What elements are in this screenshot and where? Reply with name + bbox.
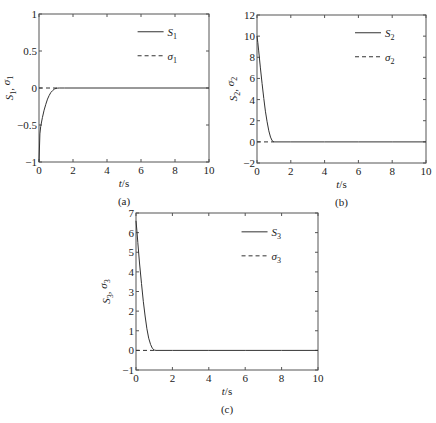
y-tick-label: 4 bbox=[129, 266, 135, 278]
chart-panel-c: 0246810−101234567t/sS3, σ3S3σ3(c) bbox=[97, 207, 324, 416]
plot-area bbox=[136, 213, 318, 370]
legend-label: S1 bbox=[168, 26, 178, 41]
x-tick-label: 10 bbox=[313, 372, 325, 384]
y-tick-label: 1 bbox=[129, 325, 135, 337]
series-line-solid bbox=[39, 88, 209, 162]
y-tick-label: 8 bbox=[250, 51, 256, 63]
y-tick-label: 12 bbox=[244, 9, 255, 21]
x-axis-label: t/s bbox=[222, 385, 232, 397]
y-tick-label: 6 bbox=[250, 72, 256, 84]
x-tick-label: 10 bbox=[421, 165, 433, 177]
x-tick-label: 0 bbox=[133, 372, 139, 384]
x-tick-label: 2 bbox=[70, 164, 76, 176]
legend-label: σ3 bbox=[272, 250, 281, 265]
legend: S2σ2 bbox=[355, 27, 395, 66]
y-tick-label: 10 bbox=[244, 30, 256, 42]
y-tick-label: −0.5 bbox=[17, 119, 37, 131]
x-tick-label: 2 bbox=[288, 165, 294, 177]
figure-canvas: 0246810−1−0.500.51t/sS1, σ1S1σ1(a)024681… bbox=[0, 0, 436, 423]
y-tick-label: −1 bbox=[122, 364, 134, 376]
y-axis: −2024681012 bbox=[243, 9, 426, 169]
y-tick-label: 5 bbox=[129, 246, 135, 258]
y-tick-label: 0.5 bbox=[23, 45, 37, 57]
y-tick-label: −1 bbox=[25, 156, 37, 168]
series-line-solid bbox=[136, 221, 318, 351]
x-tick-label: 6 bbox=[138, 164, 144, 176]
x-tick-label: 0 bbox=[36, 164, 42, 176]
x-axis: 0246810 bbox=[254, 15, 432, 177]
y-axis-label: S3, σ3 bbox=[97, 279, 115, 303]
y-tick-label: 2 bbox=[129, 305, 135, 317]
x-axis-label: t/s bbox=[119, 177, 129, 189]
legend-label: σ2 bbox=[385, 51, 394, 66]
y-tick-label: 6 bbox=[129, 227, 135, 239]
x-tick-label: 6 bbox=[356, 165, 362, 177]
chart-panel-b: 0246810−2024681012t/sS2, σ2S2σ2(b) bbox=[224, 9, 432, 209]
y-tick-label: 0 bbox=[32, 82, 38, 94]
x-tick-label: 2 bbox=[170, 372, 176, 384]
y-axis-label: S2, σ2 bbox=[224, 77, 242, 101]
y-tick-label: 3 bbox=[129, 286, 135, 298]
x-tick-label: 8 bbox=[172, 164, 178, 176]
y-tick-label: 1 bbox=[32, 8, 38, 20]
panel-caption: (c) bbox=[221, 403, 234, 416]
figure: 0246810−1−0.500.51t/sS1, σ1S1σ1(a)024681… bbox=[0, 0, 436, 423]
legend-label: S2 bbox=[385, 27, 395, 42]
y-tick-label: −2 bbox=[243, 157, 255, 169]
x-tick-label: 8 bbox=[389, 165, 395, 177]
x-tick-label: 6 bbox=[242, 372, 248, 384]
legend: S3σ3 bbox=[242, 226, 282, 265]
legend-label: σ1 bbox=[168, 50, 177, 65]
x-axis-label: t/s bbox=[336, 178, 346, 190]
y-tick-label: 0 bbox=[129, 344, 135, 356]
legend-label: S3 bbox=[272, 226, 282, 241]
x-tick-label: 4 bbox=[104, 164, 110, 176]
plot-area bbox=[257, 15, 426, 163]
y-tick-label: 7 bbox=[129, 207, 135, 219]
x-tick-label: 8 bbox=[279, 372, 285, 384]
x-tick-label: 4 bbox=[322, 165, 328, 177]
x-tick-label: 4 bbox=[206, 372, 212, 384]
series-line-solid bbox=[257, 36, 426, 142]
x-tick-label: 10 bbox=[204, 164, 216, 176]
x-axis: 0246810 bbox=[133, 213, 324, 384]
panel-caption: (b) bbox=[335, 196, 348, 209]
y-axis-label: S1, σ1 bbox=[0, 76, 18, 100]
y-tick-label: 4 bbox=[250, 94, 256, 106]
x-tick-label: 0 bbox=[254, 165, 260, 177]
chart-panel-a: 0246810−1−0.500.51t/sS1, σ1S1σ1(a) bbox=[0, 8, 215, 208]
y-tick-label: 2 bbox=[250, 115, 256, 127]
x-axis: 0246810 bbox=[36, 14, 215, 176]
y-tick-label: 0 bbox=[250, 136, 256, 148]
legend: S1σ1 bbox=[138, 26, 178, 65]
